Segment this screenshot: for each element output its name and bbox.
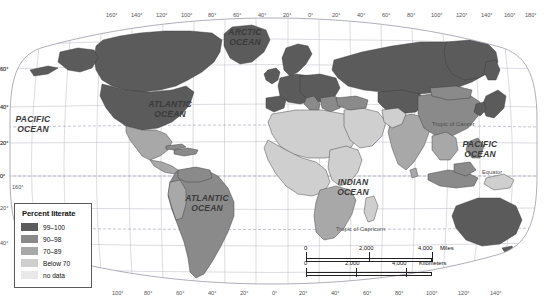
latitude-tick-right-1: 40° — [0, 104, 8, 110]
longitude-tick-top-17: 180° — [525, 12, 537, 18]
latitude-tick-right-3: 0° — [0, 173, 5, 179]
legend-item: Below 70 — [21, 258, 85, 268]
longitude-tick-top-4: 80° — [208, 12, 216, 18]
longitude-tick-bottom-6: 20° — [299, 290, 307, 296]
longitude-tick-top-6: 40° — [258, 12, 266, 18]
longitude-tick-top-1: 140° — [131, 12, 143, 18]
scale-bar: 0 2,000 4,000 Miles 0 2,000 4,000 Kilome… — [300, 246, 466, 276]
longitude-tick-bottom-10: 100° — [426, 290, 438, 296]
region-colombia-venezuela — [178, 167, 212, 182]
legend-label: no data — [43, 272, 65, 279]
longitude-tick-top-8: 0° — [308, 12, 313, 18]
scale-bar-km-track — [306, 272, 432, 276]
label-tropic-of-cancer: Tropic of Cancer — [432, 121, 475, 127]
legend-label: 70–89 — [43, 248, 61, 255]
legend-label: 90–98 — [43, 236, 61, 243]
legend-item: no data — [21, 270, 85, 280]
longitude-tick-top-7: 20° — [283, 12, 291, 18]
legend-label: 99–100 — [43, 224, 65, 231]
scale-unit-miles: Miles — [440, 245, 454, 251]
latitude-tick-right-4: 20° — [0, 205, 8, 211]
legend-swatch — [21, 271, 38, 279]
longitude-tick-top-0: 160° — [106, 12, 118, 18]
legend-title: Percent literate — [22, 209, 85, 218]
legend-swatch — [21, 247, 38, 255]
longitude-tick-bottom-3: 40° — [208, 290, 216, 296]
legend: Percent literate 99–10090–9870–89Below 7… — [14, 203, 92, 288]
longitude-tick-top-2: 120° — [156, 12, 168, 18]
longitude-tick-bottom-2: 60° — [176, 290, 184, 296]
longitude-tick-top-14: 120° — [456, 12, 468, 18]
longitude-tick-bottom-7: 40° — [331, 290, 339, 296]
legend-rows: 99–10090–9870–89Below 70no data — [21, 222, 85, 280]
region-new-zealand — [526, 238, 544, 260]
scale-label-km-0: 0 — [304, 260, 307, 266]
longitude-tick-bottom-11: 120° — [458, 290, 470, 296]
longitude-tick-top-11: 60° — [382, 12, 390, 18]
scale-tick-miles-1 — [369, 252, 370, 262]
longitude-tick-bottom-9: 80° — [395, 290, 403, 296]
scale-label-miles-0: 0 — [304, 245, 307, 251]
longitude-tick-top-5: 60° — [233, 12, 241, 18]
legend-item: 99–100 — [21, 222, 85, 232]
scale-tick-km-1 — [356, 268, 357, 277]
longitude-tick-top-9: 20° — [332, 12, 340, 18]
legend-swatch — [21, 259, 38, 267]
scale-label-km-2: 4,000 — [392, 260, 407, 266]
latitude-tick-right-2: 20° — [0, 140, 8, 146]
scale-unit-km: Kilometers — [419, 260, 446, 266]
longitude-tick-top-10: 40° — [357, 12, 365, 18]
label-equator: Equator — [482, 169, 502, 175]
scale-label-km-1: 2,000 — [345, 260, 360, 266]
longitude-tick-top-3: 100° — [181, 12, 193, 18]
legend-item: 90–98 — [21, 234, 85, 244]
scale-tick-km-0 — [306, 268, 307, 277]
scale-label-miles-2: 4,000 — [418, 245, 433, 251]
longitude-tick-top-13: 100° — [431, 12, 443, 18]
longitude-tick-bottom-5: 0° — [272, 290, 277, 296]
longitude-tick-bottom-8: 60° — [363, 290, 371, 296]
world-literacy-map: ARCTIC OCEAN PACIFIC OCEAN ATLANTIC OCEA… — [0, 0, 547, 306]
legend-item: 70–89 — [21, 246, 85, 256]
legend-swatch — [21, 223, 38, 231]
longitude-tick-top-16: 160° — [504, 12, 516, 18]
longitude-tick-left-edge-0: 160° — [12, 184, 24, 190]
scale-label-miles-1: 2,000 — [359, 245, 374, 251]
legend-label: Below 70 — [43, 260, 70, 267]
latitude-tick-right-5: 40° — [0, 240, 8, 246]
scale-tick-km-2 — [406, 268, 407, 277]
longitude-tick-bottom-4: 20° — [240, 290, 248, 296]
longitude-tick-top-12: 80° — [407, 12, 415, 18]
label-tropic-of-capricorn: Tropic of Capricorn — [336, 226, 385, 232]
longitude-tick-bottom-12: 140° — [490, 290, 502, 296]
latitude-tick-right-0: 60° — [0, 66, 8, 72]
longitude-tick-bottom-1: 80° — [144, 290, 152, 296]
longitude-tick-bottom-0: 100° — [112, 290, 124, 296]
longitude-tick-top-15: 140° — [481, 12, 493, 18]
legend-swatch — [21, 235, 38, 243]
